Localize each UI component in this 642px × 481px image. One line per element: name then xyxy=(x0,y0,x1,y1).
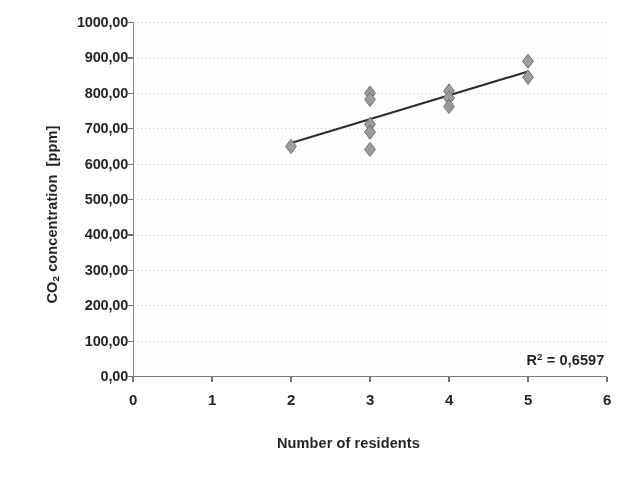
y-axis-title-subscript: 2 xyxy=(50,276,61,282)
y-axis-title-suffix: concentration [ppm] xyxy=(44,126,60,276)
x-tick-label-4: 4 xyxy=(437,392,461,407)
y-axis-title-prefix: CO xyxy=(44,282,60,304)
y-tick-label-800: 800,00 xyxy=(50,86,128,101)
r-squared-value: = 0,6597 xyxy=(543,352,605,368)
y-tick-marks xyxy=(128,23,133,377)
x-tick-label-5: 5 xyxy=(516,392,540,407)
plot-background xyxy=(133,22,607,376)
x-tick-label-1: 1 xyxy=(200,392,224,407)
y-tick-label-900: 900,00 xyxy=(50,50,128,65)
x-tick-label-6: 6 xyxy=(595,392,619,407)
r-squared-annotation: R2 = 0,6597 xyxy=(510,338,604,382)
x-tick-label-3: 3 xyxy=(358,392,382,407)
y-tick-label-100: 100,00 xyxy=(50,334,128,349)
y-axis-title: CO2 concentration [ppm] xyxy=(30,126,74,320)
x-tick-label-2: 2 xyxy=(279,392,303,407)
x-tick-label-0: 0 xyxy=(121,392,145,407)
chart-figure: 1000,00 900,00 800,00 700,00 600,00 500,… xyxy=(0,0,642,481)
y-tick-label-1000: 1000,00 xyxy=(50,15,128,30)
y-tick-label-0: 0,00 xyxy=(50,369,128,384)
x-axis-title: Number of residents xyxy=(277,436,420,451)
r-squared-prefix: R xyxy=(527,352,538,368)
r-squared-exponent: 2 xyxy=(537,351,543,362)
